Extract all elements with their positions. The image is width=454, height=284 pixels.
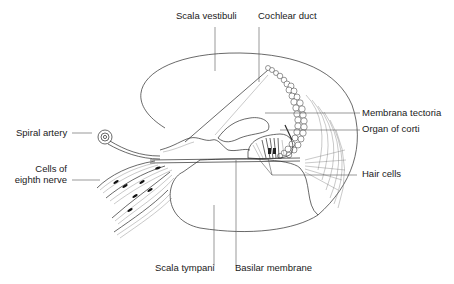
cochlea-outer-wall [141, 53, 358, 215]
label-cells-of-eighth-nerve-line2: eighth nerve [15, 174, 67, 185]
cochlea-diagram: Scala vestibuli Cochlear duct Membrana t… [0, 0, 454, 284]
nerve-cell-body [127, 207, 133, 212]
tectorial-membrane [218, 118, 269, 142]
label-scala-vestibuli: Scala vestibuli [176, 10, 237, 21]
label-cells-of-eighth-nerve-line1: Cells of [35, 163, 67, 174]
eighth-nerve-fibres [97, 161, 174, 238]
spiral-artery [98, 130, 160, 159]
scala-tympani-outline [170, 159, 318, 232]
label-cochlear-duct: Cochlear duct [258, 10, 317, 21]
stria-vascularis-cells [266, 66, 308, 159]
label-scala-tympani: Scala tympani [155, 262, 215, 273]
label-spiral-artery: Spiral artery [16, 127, 67, 138]
label-basilar-membrane: Basilar membrane [235, 262, 312, 273]
nerve-cell-body [155, 166, 161, 170]
label-membrana-tectoria: Membrana tectoria [362, 107, 442, 118]
hair-cell-nucleus [268, 148, 271, 154]
reissners-membrane [185, 70, 268, 142]
label-hair-cells: Hair cells [362, 168, 401, 179]
label-organ-of-corti: Organ of corti [362, 123, 420, 134]
hair-cell-nucleus [273, 148, 276, 154]
